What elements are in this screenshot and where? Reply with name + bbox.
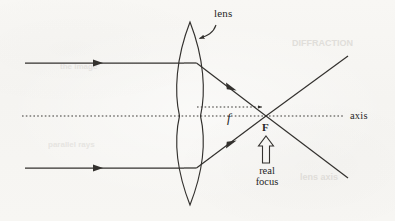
diverging-ray-downward: [266, 116, 348, 178]
lens-label-pointer-arrow: [200, 25, 217, 39]
ray-diagram-svg: [0, 0, 395, 221]
incoming-ray-lower-arrowhead: [93, 165, 103, 172]
refracted-ray-lower-arrowhead: [226, 140, 237, 148]
diverging-ray-upward: [266, 56, 348, 116]
refracted-ray-upper-arrowhead: [226, 83, 237, 91]
real-focus-block-arrow: [259, 136, 274, 163]
figure-canvas: DIFFRACTION lens axis the image parallel…: [0, 0, 395, 221]
lens-body: [177, 22, 204, 205]
incoming-ray-upper-arrowhead: [93, 60, 103, 67]
